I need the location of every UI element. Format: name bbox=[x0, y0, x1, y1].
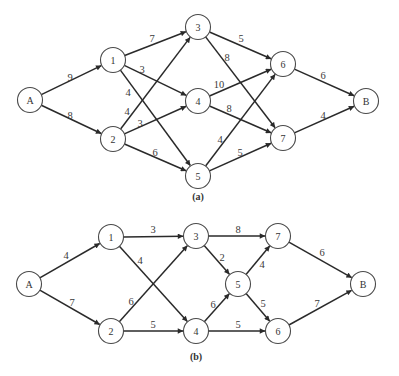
diagram-b-caption: (b) bbox=[190, 351, 202, 363]
node-label: B bbox=[363, 96, 370, 107]
node-7: 7 bbox=[266, 224, 291, 249]
node-3: 3 bbox=[186, 15, 211, 40]
edge-weight-3-5: 2 bbox=[219, 252, 224, 263]
node-2: 2 bbox=[101, 127, 126, 152]
node-5: 5 bbox=[226, 272, 251, 297]
edge-A-to-1 bbox=[40, 244, 100, 278]
node-4: 4 bbox=[186, 89, 211, 114]
node-label: 6 bbox=[276, 326, 281, 337]
diagram-b: 47346582654567 A1234567B (b) bbox=[17, 224, 376, 363]
edge-1-to-4 bbox=[124, 65, 186, 95]
edge-weight-2-4: 5 bbox=[150, 319, 155, 330]
edge-2-to-4 bbox=[124, 106, 186, 134]
edge-weight-4-6: 5 bbox=[235, 319, 240, 330]
edge-weight-5-7: 4 bbox=[259, 259, 265, 270]
edge-5-to-7 bbox=[246, 246, 270, 274]
edge-weight-4-6: 10 bbox=[214, 79, 225, 90]
node-label: 1 bbox=[109, 232, 114, 243]
node-1: 1 bbox=[99, 225, 124, 250]
node-6: 6 bbox=[266, 319, 291, 344]
node-label: B bbox=[360, 279, 367, 290]
node-label: 3 bbox=[196, 22, 201, 33]
edge-weight-3-7: 8 bbox=[224, 52, 229, 63]
node-2: 2 bbox=[99, 319, 124, 344]
edge-weight-4-5: 6 bbox=[210, 299, 215, 310]
node-7: 7 bbox=[271, 126, 296, 151]
edge-6-to-B bbox=[289, 290, 352, 325]
node-label: A bbox=[26, 95, 34, 106]
node-6: 6 bbox=[271, 52, 296, 77]
edge-weight-6-B: 6 bbox=[320, 70, 325, 81]
node-label: A bbox=[25, 279, 33, 290]
node-4: 4 bbox=[184, 319, 209, 344]
edge-weight-2-3: 6 bbox=[128, 296, 133, 307]
edge-4-to-5 bbox=[204, 294, 229, 322]
edge-weight-7-B: 4 bbox=[320, 110, 326, 121]
edge-3-to-5 bbox=[204, 245, 229, 274]
node-A: A bbox=[17, 272, 42, 297]
diagram-a: 98734436581084564 A1234567B (a) bbox=[18, 15, 379, 203]
node-label: 3 bbox=[194, 231, 199, 242]
diagram-a-nodes: A1234567B bbox=[18, 15, 379, 189]
network-diagrams-canvas: 98734436581084564 A1234567B (a) 47346582… bbox=[0, 0, 399, 376]
node-1: 1 bbox=[101, 48, 126, 73]
diagram-a-caption: (a) bbox=[192, 191, 204, 203]
node-label: 5 bbox=[236, 279, 241, 290]
diagram-b-edges bbox=[40, 236, 352, 331]
edge-5-to-6 bbox=[246, 294, 270, 322]
node-B: B bbox=[351, 272, 376, 297]
edge-weight-A-2: 8 bbox=[67, 110, 72, 121]
edge-weight-1-3: 7 bbox=[149, 33, 154, 44]
node-label: 1 bbox=[111, 55, 116, 66]
diagram-b-nodes: A1234567B bbox=[17, 224, 376, 344]
node-label: 6 bbox=[281, 59, 286, 70]
edge-weight-1-5: 4 bbox=[125, 87, 131, 98]
node-B: B bbox=[354, 89, 379, 114]
edge-weight-5-6: 5 bbox=[260, 298, 265, 309]
edge-weight-5-7: 5 bbox=[237, 147, 242, 158]
edge-weight-3-7: 8 bbox=[235, 224, 240, 235]
edge-weight-4-7: 8 bbox=[226, 103, 231, 114]
edge-weight-7-B: 6 bbox=[319, 247, 324, 258]
node-3: 3 bbox=[184, 224, 209, 249]
edge-weight-6-B: 7 bbox=[314, 298, 319, 309]
node-label: 4 bbox=[194, 326, 199, 337]
node-label: 2 bbox=[109, 326, 114, 337]
edge-1-to-3 bbox=[124, 236, 184, 237]
node-label: 5 bbox=[196, 171, 201, 182]
node-5: 5 bbox=[186, 164, 211, 189]
edge-weight-2-5: 6 bbox=[152, 147, 157, 158]
edge-weight-2-4: 3 bbox=[137, 118, 142, 129]
node-label: 7 bbox=[281, 133, 286, 144]
node-label: 7 bbox=[276, 231, 281, 242]
edge-weight-3-6: 5 bbox=[238, 33, 243, 44]
edge-weight-5-6: 4 bbox=[217, 134, 223, 145]
edge-weight-1-3: 3 bbox=[150, 224, 155, 235]
edge-1-to-3 bbox=[125, 32, 186, 56]
edge-weight-1-4: 3 bbox=[139, 64, 144, 75]
edge-2-to-3 bbox=[121, 37, 191, 129]
edge-weight-A-1: 9 bbox=[67, 72, 72, 83]
edge-weight-2-3: 4 bbox=[124, 106, 130, 117]
edge-weight-1-4: 4 bbox=[137, 255, 143, 266]
edge-weight-A-1: 4 bbox=[63, 250, 69, 261]
node-A: A bbox=[18, 88, 43, 113]
node-label: 4 bbox=[196, 96, 201, 107]
node-label: 2 bbox=[111, 134, 116, 145]
edge-weight-A-2: 7 bbox=[69, 297, 74, 308]
